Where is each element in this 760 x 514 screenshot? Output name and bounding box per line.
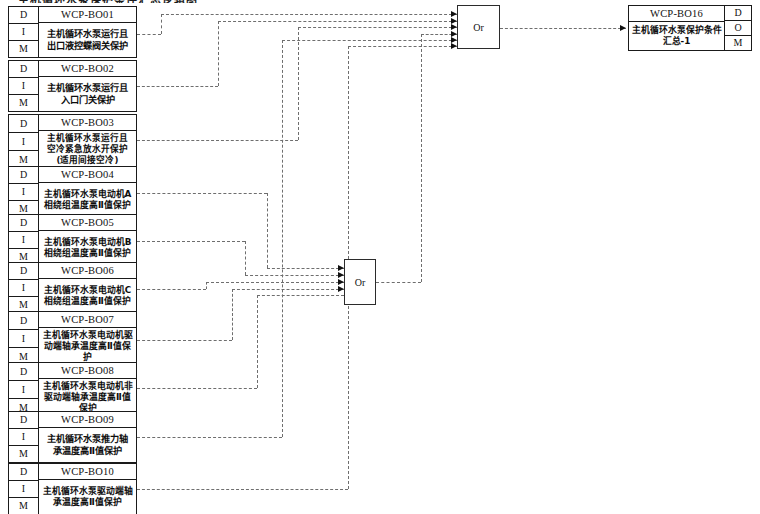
signal-row-labels: D I M [9,215,39,265]
signal-body: WCP-BO04 主机循环水泵电动机A 相绕组温度高Ⅱ值保护 [39,167,136,217]
signal-row-labels: D I M [9,412,39,462]
row-label-m: M [9,95,38,111]
signal-desc: 主机循环水泵推力轴 承温度高Ⅱ值保护 [39,428,136,462]
wire-bo05-h2 [245,275,344,276]
wire-bo03-v [298,27,299,140]
row-label-d: D [9,363,38,381]
signal-tag: WCP-BO04 [39,167,136,183]
signal-row-labels: D I M [9,363,39,416]
wire-bo08-h1 [137,388,257,389]
wire-bo01-h2 [161,14,457,15]
wire-bo03-h2 [298,27,457,28]
row-label-m: M [9,498,38,514]
or-gate-middle[interactable]: Or [344,259,376,305]
row-label-i: I [9,381,38,399]
signal-box-wcp-bo05[interactable]: D I M WCP-BO05 主机循环水泵电动机B 相绕组温度高Ⅱ值保护 [8,214,137,266]
signal-body: WCP-BO10 主机循环水泵驱动端轴 承温度高Ⅱ值保护 [39,464,136,514]
signal-row-labels: D I M [9,312,39,365]
signal-body: WCP-BO03 主机循环水泵运行且 空冷紧急放水开保护 (适用间接空冷) [39,115,136,168]
output-box-wcp-bo16[interactable]: WCP-BO16 主机循环水泵保护条件 汇总-1 D O M [628,5,752,51]
wire-bo04-h2 [267,268,344,269]
signal-body: WCP-BO05 主机循环水泵电动机B 相绕组温度高Ⅱ值保护 [39,215,136,265]
signal-body: WCP-BO07 主机循环水泵电动机驱 动端轴承温度高Ⅱ值保 护 [39,312,136,365]
row-label-d: D [9,263,38,280]
signal-box-wcp-bo02[interactable]: D I M WCP-BO02 主机循环水泵运行且 入口门关保护 [8,60,137,112]
wire-bo07-h1 [137,340,232,341]
signal-tag: WCP-BO07 [39,312,136,328]
or-gate-top[interactable]: Or [457,5,500,49]
row-label-i: I [9,429,38,446]
signal-box-wcp-bo07[interactable]: D I M WCP-BO07 主机循环水泵电动机驱 动端轴承温度高Ⅱ值保 护 [8,311,137,366]
signal-desc: 主机循环水泵电动机C 相绕组温度高Ⅱ值保护 [39,279,136,313]
signal-box-wcp-bo10[interactable]: D I M WCP-BO10 主机循环水泵驱动端轴 承温度高Ⅱ值保护 [8,463,137,514]
row-label-i: I [9,280,38,297]
wire-bo02-v [218,21,219,86]
wire-bo01-h1 [137,34,161,35]
signal-box-wcp-bo04[interactable]: D I M WCP-BO04 主机循环水泵电动机A 相绕组温度高Ⅱ值保护 [8,166,137,218]
wire-ormid-out-h [376,282,421,283]
signal-tag: WCP-BO09 [39,412,136,428]
wire-bo06-v [206,282,207,289]
signal-desc: 主机循环水泵运行且 空冷紧急放水开保护 (适用间接空冷) [39,131,136,168]
row-label-o: O [725,21,751,36]
signal-row-labels: D I M [9,115,39,168]
signal-tag: WCP-BO05 [39,215,136,231]
wire-bo09-h2 [282,40,457,41]
signal-desc: 主机循环水泵电动机B 相绕组温度高Ⅱ值保护 [39,231,136,265]
row-label-d: D [725,6,751,21]
wire-ortop-out [500,28,626,29]
wire-bo04-h1 [137,193,267,194]
signal-box-wcp-bo08[interactable]: D I M WCP-BO08 主机循环水泵电动机非 驱动端轴承温度高Ⅱ值 保护 [8,362,137,417]
output-tag: WCP-BO16 [629,6,724,22]
wire-ormid-out-v [421,34,422,282]
row-label-i: I [9,78,38,95]
signal-body: WCP-BO02 主机循环水泵运行且 入口门关保护 [39,61,136,111]
wire-bo02-h2 [218,21,457,22]
row-label-d: D [9,7,38,24]
wire-bo02-h1 [137,86,218,87]
wire-bo09-h1 [137,437,282,438]
signal-tag: WCP-BO08 [39,363,136,379]
row-label-i: I [9,481,38,498]
signal-box-wcp-bo03[interactable]: D I M WCP-BO03 主机循环水泵运行且 空冷紧急放水开保护 (适用间接… [8,114,137,169]
row-label-i: I [9,133,38,151]
wire-bo07-v [232,289,233,340]
signal-tag: WCP-BO02 [39,61,136,77]
signal-body: WCP-BO01 主机循环水泵运行且 出口液控蝶阀关保护 [39,7,136,57]
wire-bo03-h1 [137,140,298,141]
diagram-title: 主机循环水泵保护条件汇总逻辑图 [18,0,318,3]
row-label-d: D [9,412,38,429]
logic-diagram-canvas: 主机循环水泵保护条件汇总逻辑图 [0,0,760,514]
wire-bo05-v [245,241,246,275]
row-label-i: I [9,330,38,348]
signal-desc: 主机循环水泵驱动端轴 承温度高Ⅱ值保护 [39,480,136,514]
row-label-i: I [9,184,38,201]
wire-bo05-h1 [137,241,245,242]
arrow-output-box [620,25,626,31]
wire-bo06-h1 [137,289,206,290]
signal-box-wcp-bo09[interactable]: D I M WCP-BO09 主机循环水泵推力轴 承温度高Ⅱ值保护 [8,411,137,463]
or-gate-top-label: Or [473,22,484,33]
signal-body: WCP-BO06 主机循环水泵电动机C 相绕组温度高Ⅱ值保护 [39,263,136,313]
row-label-m: M [725,36,751,50]
wire-bo06-h2 [206,282,344,283]
row-label-d: D [9,115,38,133]
output-body: WCP-BO16 主机循环水泵保护条件 汇总-1 [629,6,725,50]
signal-box-wcp-bo01[interactable]: D I M WCP-BO01 主机循环水泵运行且 出口液控蝶阀关保护 [8,6,137,58]
signal-row-labels: D I M [9,7,39,57]
signal-row-labels: D I M [9,61,39,111]
wire-bo08-v [257,295,258,388]
signal-tag: WCP-BO03 [39,115,136,131]
row-label-m: M [9,41,38,57]
wire-bo09-v [282,40,283,437]
signal-desc: 主机循环水泵电动机驱 动端轴承温度高Ⅱ值保 护 [39,328,136,365]
row-label-i: I [9,232,38,249]
signal-tag: WCP-BO01 [39,7,136,23]
signal-box-wcp-bo06[interactable]: D I M WCP-BO06 主机循环水泵电动机C 相绕组温度高Ⅱ值保护 [8,262,137,314]
signal-row-labels: D I M [9,464,39,514]
wire-bo04-riser [267,193,268,268]
wire-bo10-h1 [137,489,348,490]
output-desc: 主机循环水泵保护条件 汇总-1 [629,22,724,50]
or-gate-middle-label: Or [355,277,366,288]
signal-desc: 主机循环水泵运行且 出口液控蝶阀关保护 [39,23,136,57]
